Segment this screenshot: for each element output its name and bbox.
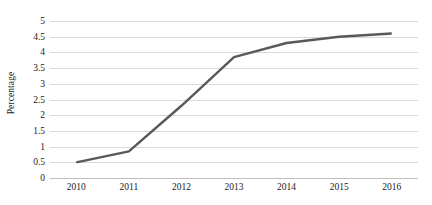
x-axis-tick-label: 2013: [225, 182, 244, 192]
y-axis-tick-label: 1: [18, 142, 45, 152]
x-axis-tick-label: 2015: [330, 182, 349, 192]
y-axis-tick-label: 0: [18, 173, 45, 183]
y-axis-tick-label: 5: [18, 16, 45, 26]
y-axis-tick-label: 3: [18, 79, 45, 89]
x-axis-tick-label: 2014: [277, 182, 296, 192]
plot-area: [50, 21, 418, 178]
x-axis-tick-label: 2016: [382, 182, 401, 192]
x-axis-tick-labels: 2010201120122013201420152016: [50, 182, 418, 200]
data-series-line: [76, 34, 391, 163]
data-line: [50, 21, 418, 178]
y-axis-tick-label: 0.5: [18, 157, 45, 167]
y-axis-tick-label: 1.5: [18, 126, 45, 136]
y-axis-title-text: Percentage: [6, 71, 16, 114]
y-axis-tick-label: 2.5: [18, 95, 45, 105]
y-axis-tick-labels: 00.511.522.533.544.55: [18, 0, 45, 205]
y-axis-tick-label: 3.5: [18, 63, 45, 73]
x-axis-line: [50, 178, 418, 179]
y-axis-tick-label: 4: [18, 47, 45, 57]
y-axis-tick-label: 2: [18, 110, 45, 120]
chart-screenshot: Percentage 00.511.522.533.544.55 2010201…: [0, 0, 432, 205]
x-axis-tick-label: 2011: [120, 182, 139, 192]
y-axis-tick-label: 4.5: [18, 32, 45, 42]
x-axis-tick-label: 2012: [172, 182, 191, 192]
x-axis-tick-label: 2010: [67, 182, 86, 192]
